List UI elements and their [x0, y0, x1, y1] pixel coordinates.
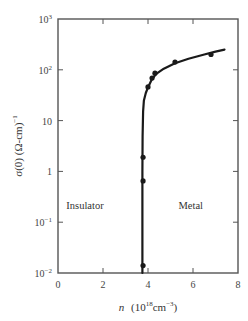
y-axis-label: σ(0) (Ω-cm)−1 [11, 115, 25, 177]
y-tick-label: 103 [39, 13, 53, 25]
y-tick-label: 102 [39, 64, 53, 76]
y-tick-label: 10 [42, 116, 52, 127]
data-marks [140, 50, 224, 273]
x-tick-label: 2 [101, 279, 106, 290]
y-axis-main: σ(0) (Ω-cm) [12, 122, 25, 176]
x-tick-label: 8 [236, 279, 241, 290]
x-axis-label: n (1018cm−3) [119, 300, 178, 314]
x-tick-label: 0 [56, 279, 61, 290]
x-axis-unit: cm [153, 301, 167, 313]
x-tick-label: 6 [191, 279, 196, 290]
y-tick-label: 1 [47, 166, 52, 177]
data-point [152, 71, 157, 76]
data-point [208, 52, 213, 57]
y-tick-label: 10−1 [35, 216, 53, 228]
data-point [140, 263, 145, 268]
annotation-metal: Metal [179, 200, 204, 211]
annotation-insulator: Insulator [66, 200, 104, 211]
y-axis-exp: −1 [11, 115, 19, 123]
x-axis-var: n [119, 301, 125, 313]
y-tick-label: 10−2 [35, 267, 53, 279]
data-point [172, 59, 177, 64]
x-axis-open: (10 [131, 301, 146, 314]
data-point [140, 178, 145, 183]
data-point [145, 84, 150, 89]
data-point [140, 155, 145, 160]
x-axis-close: ) [174, 301, 178, 314]
fit-curve [142, 50, 224, 273]
data-point [149, 75, 154, 80]
x-tick-label: 4 [146, 279, 151, 290]
conductivity-chart: 0246810310210110−110−2 Insulator Metal n… [0, 0, 248, 321]
